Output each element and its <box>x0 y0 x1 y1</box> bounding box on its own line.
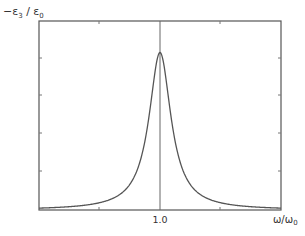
xlabel-main: ω/ω <box>273 214 293 225</box>
x-tick-label: 1.0 <box>152 214 167 225</box>
xlabel-subscript: 0 <box>293 219 297 227</box>
x-axis-label: ω/ω0 <box>273 214 298 225</box>
plot-area <box>0 0 305 236</box>
